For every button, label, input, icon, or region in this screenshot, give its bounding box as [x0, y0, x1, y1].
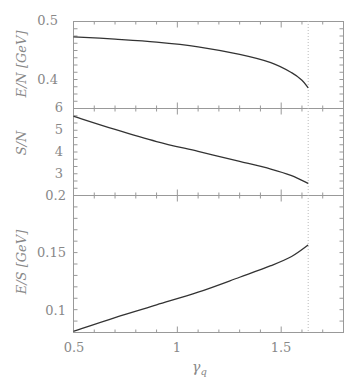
x-axis-label: γq: [192, 359, 207, 377]
mid-tick-0: 6: [55, 100, 63, 115]
chart: 0.5 0.4 6 5 4 3 0.2 0.15 0.1 0.5 1 1.5 E…: [0, 0, 358, 389]
top-tick-1: 0.4: [37, 72, 58, 87]
curve-e-per-n: [74, 37, 309, 88]
top-tick-0: 0.5: [37, 13, 58, 28]
top-y-label: E/N [GeV]: [14, 30, 29, 99]
bot-tick-1: 0.15: [37, 245, 66, 260]
mid-tick-3: 3: [55, 166, 63, 181]
curve-s-per-n: [74, 116, 309, 183]
bot-tick-2: 0.1: [45, 303, 66, 318]
mid-tick-1: 5: [55, 122, 63, 137]
x-tick-0: 0.5: [64, 340, 85, 355]
bot-tick-0: 0.2: [45, 188, 66, 203]
mid-y-label: S/N: [14, 130, 29, 155]
plot-frame: [74, 22, 344, 333]
bot-y-label: E/S [GeV]: [14, 229, 29, 295]
curve-e-per-s: [74, 245, 309, 331]
mid-tick-2: 4: [55, 144, 63, 159]
x-tick-1: 1: [173, 340, 181, 355]
x-tick-2: 1.5: [271, 340, 292, 355]
